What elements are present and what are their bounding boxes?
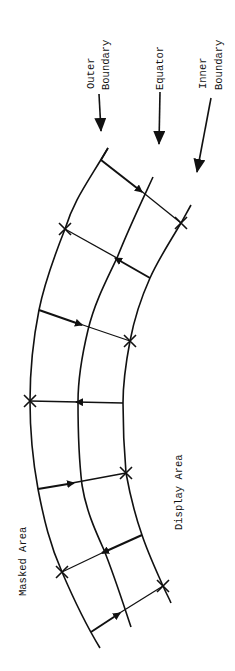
inner-boundary-pointer bbox=[197, 98, 211, 172]
arc-diagram bbox=[0, 0, 235, 671]
x-mark bbox=[175, 217, 187, 229]
outer-boundary-pointer bbox=[99, 94, 101, 131]
equator-pointer bbox=[159, 92, 160, 144]
outer-top-tick bbox=[101, 148, 108, 160]
label-inner-boundary: Boundary bbox=[213, 40, 225, 90]
label-display-area: Display Area bbox=[173, 454, 185, 530]
x-mark bbox=[56, 566, 68, 578]
diagram: Outer Boundary Equator Inner Boundary Ma… bbox=[0, 0, 235, 671]
x-mark bbox=[59, 223, 71, 235]
label-equator: Equator bbox=[154, 46, 166, 90]
x-mark bbox=[157, 580, 169, 592]
outer-boundary-arc bbox=[30, 148, 108, 648]
label-outer: Outer bbox=[85, 57, 97, 89]
label-masked-area: Masked Area bbox=[17, 527, 29, 596]
label-outer-boundary: Boundary bbox=[100, 40, 112, 90]
inner-boundary-arc bbox=[123, 205, 191, 603]
label-inner: Inner bbox=[197, 57, 209, 89]
